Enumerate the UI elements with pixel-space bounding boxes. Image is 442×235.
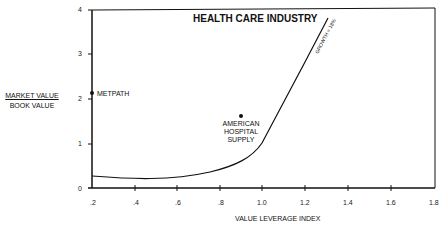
x-tick-label: .6 [175, 199, 181, 206]
y-axis-ticks: 4 3 2 1 0 [78, 6, 92, 192]
x-axis-label: VALUE LEVERAGE INDEX [235, 215, 320, 222]
ahs-point [239, 114, 243, 118]
metpath-label: METPATH [97, 90, 129, 97]
metpath-point [90, 91, 94, 95]
chart: 4 3 2 1 0 .2 .4 .6 .8 1.0 1.2 1.4 1.6 1.… [0, 0, 442, 235]
x-tick-label: .4 [133, 199, 139, 206]
y-tick-label: 2 [78, 95, 82, 102]
x-tick-label: 1.4 [343, 199, 353, 206]
chart-title: HEALTH CARE INDUSTRY [193, 13, 318, 24]
y-axis-label-denominator: BOOK VALUE [10, 102, 55, 109]
ahs-label-line3: SUPPLY [227, 136, 254, 143]
x-tick-label: .2 [90, 199, 96, 206]
y-axis-label-numerator: MARKET VALUE [4, 91, 60, 101]
ahs-label-line2: HOSPITAL [224, 128, 258, 135]
x-tick-label: .8 [218, 199, 224, 206]
y-tick-label: 3 [78, 50, 82, 57]
x-tick-label: 1.0 [257, 199, 267, 206]
growth-curve [92, 18, 328, 179]
y-tick-label: 1 [78, 140, 82, 147]
x-tick-label: 1.6 [386, 199, 396, 206]
y-tick-label: 4 [78, 6, 82, 13]
x-tick-label: 1.2 [300, 199, 310, 206]
y-tick-label: 0 [78, 185, 82, 192]
y-axis-label: MARKET VALUE BOOK VALUE [4, 91, 60, 111]
ahs-label-line1: AMERICAN [223, 120, 260, 127]
x-tick-label: 1.8 [429, 199, 439, 206]
plot-frame [88, 8, 435, 188]
